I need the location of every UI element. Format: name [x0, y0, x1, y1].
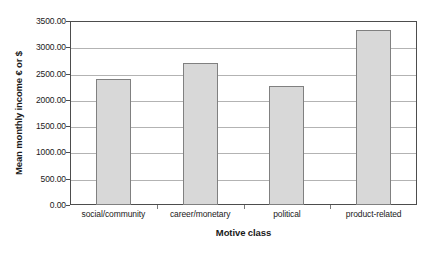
y-axis-tick-label: 500.00: [41, 174, 66, 184]
x-axis-title: Motive class: [70, 227, 417, 238]
y-axis-tick-mark: [66, 126, 70, 127]
bar-chart-figure: Mean monthly income € or $ 0.00500.00100…: [0, 0, 430, 253]
y-axis-tick-mark: [66, 205, 70, 206]
y-axis-tick-labels: 0.00500.001000.001500.002000.002500.0030…: [22, 21, 66, 205]
y-axis-tick-mark: [66, 21, 70, 22]
y-axis-tick-label: 3000.00: [36, 42, 66, 52]
y-axis-tick-label: 1000.00: [36, 147, 66, 157]
y-axis-tick-mark: [66, 179, 70, 180]
bar: [183, 63, 218, 205]
y-axis-tick-mark: [66, 74, 70, 75]
y-axis-tick-label: 2500.00: [36, 69, 66, 79]
y-axis-tick-label: 0.00: [50, 200, 66, 210]
x-axis-tick-labels: social/communitycareer/monetarypolitical…: [70, 209, 417, 225]
bar: [269, 86, 304, 205]
y-axis-tick-label: 2000.00: [36, 95, 66, 105]
bar: [96, 79, 131, 205]
x-axis-separator-tick: [330, 205, 331, 209]
y-axis-tick-mark: [66, 47, 70, 48]
x-axis-tick-label: political: [273, 209, 300, 219]
y-axis-tick-label: 1500.00: [36, 121, 66, 131]
y-axis-tick-label: 3500.00: [36, 16, 66, 26]
x-axis-separator-tick: [244, 205, 245, 209]
x-axis-tick-label: product-related: [346, 209, 402, 219]
y-axis-tick-mark: [66, 152, 70, 153]
x-axis-tick-label: social/community: [82, 209, 146, 219]
bars-layer: [70, 21, 417, 205]
y-axis-tick-mark: [66, 100, 70, 101]
x-axis-separator-tick: [157, 205, 158, 209]
x-axis-tick-label: career/monetary: [170, 209, 230, 219]
bar: [356, 30, 391, 205]
